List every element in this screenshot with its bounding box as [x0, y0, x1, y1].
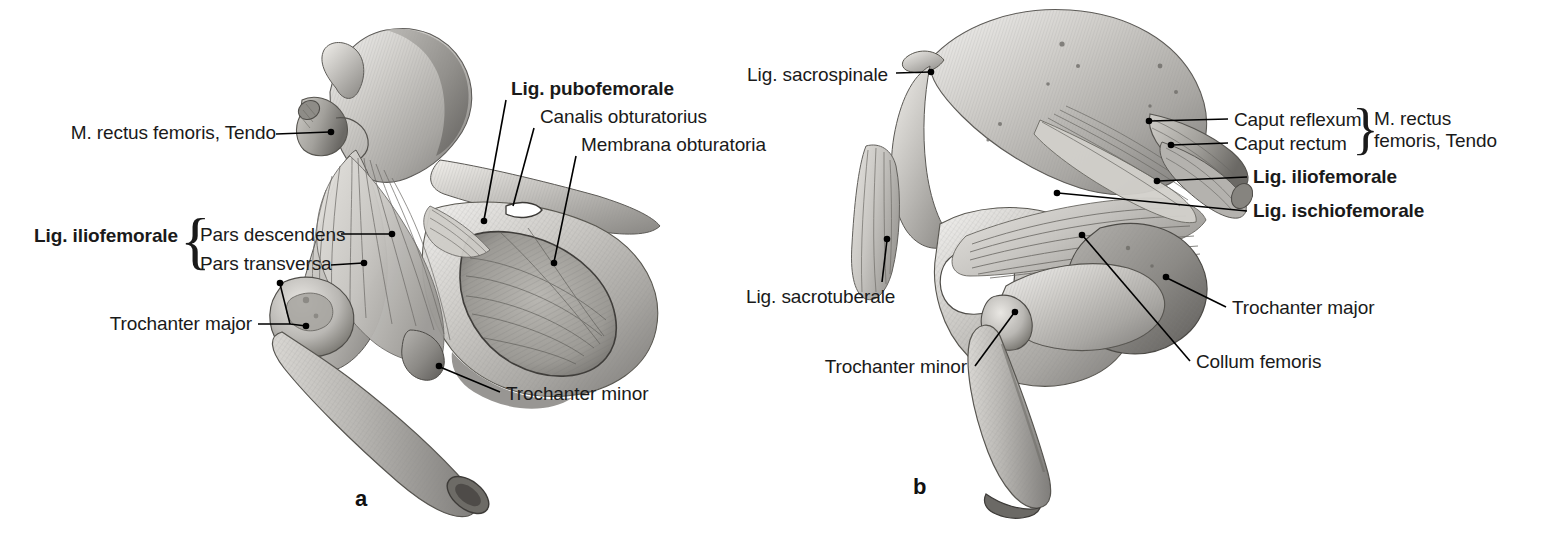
label-lig-iliofemorale-b: Lig. iliofemorale [1253, 166, 1397, 188]
label-trochanter-minor-a: Trochanter minor [506, 383, 648, 405]
label-m-rectus-femoris-tendo-b: M. rectus femoris, Tendo [1374, 108, 1497, 153]
label-canalis-obturatorius: Canalis obturatorius [540, 106, 707, 128]
label-lig-sacrospinale: Lig. sacrospinale [640, 64, 888, 86]
label-caput-reflexum: Caput reflexum [1234, 109, 1361, 131]
panel-letter-b: b [913, 474, 926, 500]
panel-letter-a: a [355, 486, 367, 512]
label-lig-iliofemorale-a: Lig. iliofemorale [0, 225, 178, 247]
label-pars-descendens: Pars descendens [200, 224, 345, 246]
panel-b-artwork [852, 9, 1257, 518]
anatomy-figure: M. rectus femoris, Tendo Lig. pubofemora… [0, 0, 1546, 544]
label-caput-rectum: Caput rectum [1234, 133, 1347, 155]
lig-sacrotuberale-band [852, 145, 900, 300]
label-membrana-obturatoria: Membrana obturatoria [581, 134, 766, 156]
label-lig-sacrotuberale: Lig. sacrotuberale [746, 286, 895, 308]
label-collum-femoris: Collum femoris [1196, 351, 1321, 373]
label-lig-ischiofemorale: Lig. ischiofemorale [1253, 200, 1424, 222]
label-pars-transversa: Pars transversa [200, 253, 332, 275]
label-m-rectus-femoris-tendo-a: M. rectus femoris, Tendo [0, 122, 276, 144]
label-trochanter-minor-b: Trochanter minor [715, 356, 967, 378]
label-trochanter-major-b: Trochanter major [1232, 297, 1374, 319]
label-trochanter-major-a: Trochanter major [0, 313, 252, 335]
